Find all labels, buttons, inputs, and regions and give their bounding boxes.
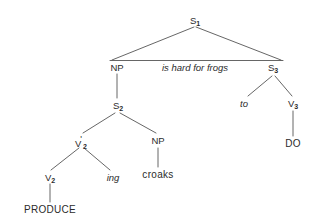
node-croaks: croaks <box>142 169 173 180</box>
node-np-subject: NP <box>110 62 123 73</box>
node-ing: ing <box>107 172 120 183</box>
edge-v2bar-ing <box>84 148 110 170</box>
edge-s2-np <box>120 113 156 133</box>
edge-s3-v3 <box>275 76 292 96</box>
node-s2-subscript: 2 <box>119 105 123 112</box>
node-v2-subscript: 2 <box>51 177 55 184</box>
node-s2: S2 <box>113 100 123 112</box>
edge-v2bar-v2 <box>51 148 79 170</box>
node-to: to <box>240 98 248 109</box>
node-v2-bar-prime: ʹ <box>80 134 82 144</box>
edge-s2-v2bar <box>83 113 115 133</box>
node-v3-subscript: 3 <box>294 103 298 110</box>
node-s1: S1 <box>190 15 200 27</box>
edge-s1-np <box>112 27 194 60</box>
node-s1-subscript: 1 <box>196 20 200 27</box>
edge-s1-s3 <box>196 27 281 60</box>
node-v2: V2 <box>45 172 55 184</box>
node-v2-bar-subscript: 2 <box>83 143 87 150</box>
node-s3: S3 <box>268 62 278 74</box>
node-do: DO <box>285 138 301 149</box>
tree-edges <box>0 0 320 223</box>
node-produce: PRODUCE <box>24 204 76 215</box>
node-np-object: NP <box>151 135 164 146</box>
node-s3-subscript: 3 <box>274 67 278 74</box>
node-predicate-phrase: is hard for frogs <box>162 62 228 73</box>
node-v2-bar: Vʹ2 <box>75 135 87 150</box>
node-v3: V3 <box>288 98 298 110</box>
edge-s3-to <box>248 76 272 96</box>
syntax-tree-diagram: S1 NP is hard for frogs S3 to V3 DO S2 V… <box>0 0 320 223</box>
